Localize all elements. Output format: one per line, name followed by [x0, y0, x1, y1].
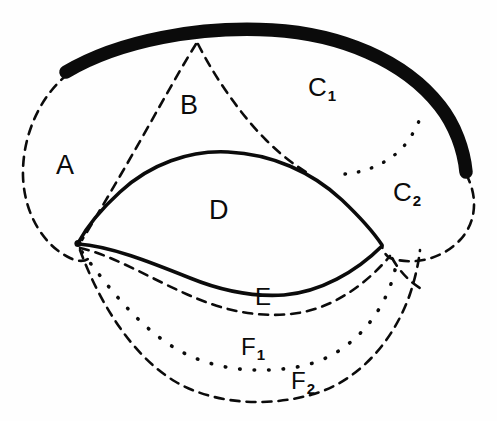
region-label-c1: C1: [308, 74, 336, 103]
region-e-dashed-arc: [80, 248, 390, 315]
region-label-d-text: D: [209, 195, 229, 225]
region-label-f2-text: F: [291, 367, 306, 394]
region-label-c1-subscript: 1: [328, 87, 336, 104]
thick-black-superior-arc: [66, 29, 466, 172]
region-label-f1: F1: [241, 335, 265, 362]
region-label-f2-subscript: 2: [307, 380, 315, 397]
region-label-c1-text: C: [308, 72, 327, 102]
region-label-d: D: [209, 197, 229, 224]
region-label-b-text: B: [180, 90, 199, 120]
region-label-c2: C2: [393, 179, 421, 208]
region-label-a: A: [56, 152, 75, 179]
region-label-b: B: [180, 92, 199, 119]
left-convergence-vertex: [74, 240, 81, 247]
region-d-superior-solid-border: [78, 152, 382, 245]
region-label-f2: F2: [291, 369, 315, 396]
region-label-f1-subscript: 1: [257, 346, 265, 363]
region-d-inferior-solid-border: [78, 244, 382, 295]
region-f1-dotted-arc: [82, 252, 396, 370]
region-label-c2-subscript: 2: [413, 192, 421, 209]
region-label-c2-text: C: [393, 177, 412, 207]
c1-c2-dotted-divider: [345, 110, 423, 174]
region-label-e-text: E: [255, 283, 272, 310]
region-f2-dashed-arc: [80, 250, 420, 402]
region-label-a-text: A: [56, 150, 75, 180]
region-label-f1-text: F: [241, 333, 256, 360]
region-label-e: E: [255, 285, 272, 309]
figure-canvas: A B C1 C2 D E F1 F2: [0, 0, 497, 421]
